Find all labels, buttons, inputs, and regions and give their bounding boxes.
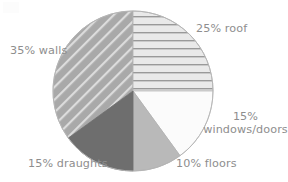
pie-chart-figure: 25% roof 15% windows/doors 10% floors 15…	[0, 0, 288, 182]
pie-label-draughts: 15% draughts	[28, 158, 108, 171]
pie-label-roof: 25% roof	[196, 23, 247, 36]
pie-label-floors: 10% floors	[176, 158, 237, 171]
pie-label-windows-doors-line2: windows/doors	[203, 123, 288, 136]
pie-label-walls: 35% walls	[10, 45, 67, 58]
pie-label-windows-doors-line1: 15%	[203, 110, 288, 123]
pie-label-windows-doors: 15% windows/doors	[203, 110, 288, 136]
